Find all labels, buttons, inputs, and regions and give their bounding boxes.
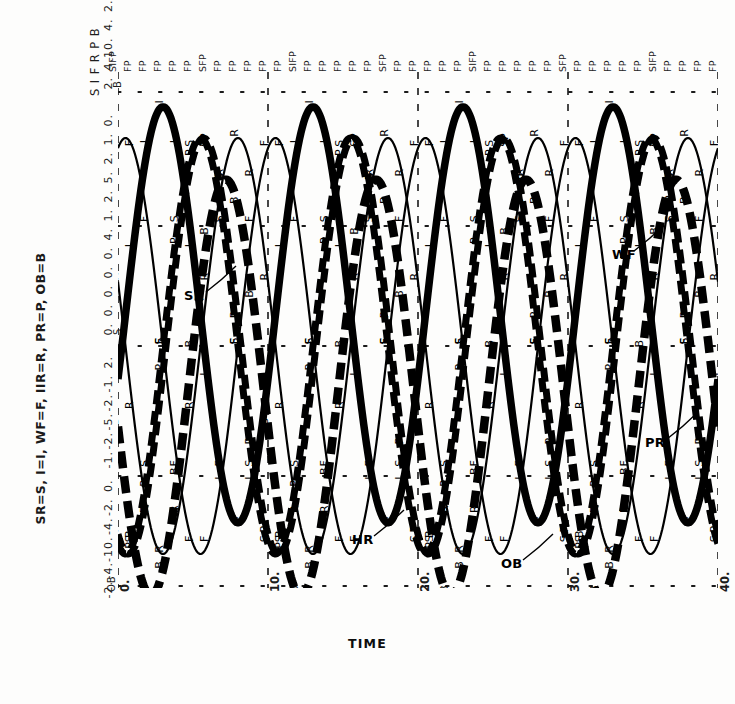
y-tick-label: 1. [102, 209, 115, 228]
point-code-F: F [213, 460, 226, 466]
point-code-I: I [558, 372, 571, 375]
x-tick-label: 10. [268, 572, 282, 592]
point-code-P: P [648, 133, 661, 140]
point-code-R: R [483, 401, 496, 409]
point-code-R: R [693, 169, 706, 177]
point-code-R: R [243, 169, 256, 177]
y-tick-label: 1. [102, 133, 115, 152]
point-code-F: F [198, 536, 211, 542]
y-tick-label: 2. [102, 0, 115, 19]
callout-leader-line [523, 534, 553, 560]
point-code-F: F [468, 460, 481, 466]
top-tick-label: FP [122, 60, 133, 72]
point-code-I: I [273, 244, 286, 247]
top-tick-label: FP [677, 60, 688, 72]
point-code-I: I [153, 100, 166, 103]
top-tick-label: FP [347, 60, 358, 72]
series-callout-sr: SR [184, 288, 204, 303]
top-tick-label: FP [617, 60, 628, 72]
top-tick-label: FP [542, 60, 553, 72]
point-code-S: S [138, 460, 151, 467]
point-code-I: I [348, 372, 361, 375]
point-code-R: R [288, 505, 301, 513]
point-code-R: R [378, 129, 391, 137]
point-code-S: S [633, 140, 646, 147]
point-code-R: R [498, 273, 511, 281]
point-code-I: I [393, 476, 406, 479]
point-code-B: B [273, 530, 286, 538]
y-tick-row-middle: 0.0.0.0.0.4. [102, 228, 115, 342]
point-code-I: I [213, 476, 226, 479]
point-code-B: B [693, 290, 706, 298]
top-axis-tick-labels: SIFPFPFPFPFPFPSFPFPFPFPFPFPSIFPFPFPFPFPF… [118, 22, 718, 72]
point-code-R: R [408, 273, 421, 281]
point-code-F: F [408, 140, 421, 146]
point-code-F: F [303, 338, 316, 344]
point-code-S: S [168, 215, 181, 222]
point-code-I: I [513, 476, 526, 479]
point-code-R: R [273, 401, 286, 409]
point-code-S: S [468, 215, 481, 222]
point-code-R: R [573, 401, 586, 409]
point-code-P: P [243, 438, 256, 445]
point-code-F: F [618, 460, 631, 466]
point-code-S: S [118, 535, 121, 542]
series-callout-hr: HR [352, 532, 374, 547]
point-code-S: S [333, 140, 346, 147]
y-tick-label: 0. [102, 266, 115, 285]
point-code-B: B [618, 467, 631, 475]
point-code-R: R [438, 505, 451, 513]
point-code-F: F [588, 216, 601, 222]
point-code-I: I [663, 476, 676, 479]
y-tick-label: 4. [102, 19, 115, 38]
point-code-P: P [423, 542, 436, 549]
point-code-S: S [558, 535, 571, 542]
point-code-R: R [633, 401, 646, 409]
figure-canvas: SR=S, I=I, WF=F, IIR=R, PR=P, OB=B 2.4.1… [0, 0, 735, 704]
point-code-P: P [408, 526, 421, 533]
point-code-P: P [273, 542, 286, 549]
point-code-F: F [603, 338, 616, 344]
point-code-P: P [513, 195, 526, 202]
point-code-F: F [118, 140, 121, 146]
point-code-S: S [663, 215, 676, 222]
point-code-R: R [198, 273, 211, 281]
point-code-I: I [333, 244, 346, 247]
point-code-F: F [453, 338, 466, 344]
top-tick-label: FP [587, 60, 598, 72]
point-code-F: F [378, 338, 391, 344]
top-tick-label: FP [272, 60, 283, 72]
point-code-P: P [138, 480, 151, 487]
point-code-F: F [543, 216, 556, 222]
top-tick-label: FP [497, 60, 508, 72]
point-code-S: S [408, 535, 421, 542]
point-code-F: F [363, 460, 376, 466]
point-code-I: I [183, 244, 196, 247]
point-code-B: B [348, 227, 361, 235]
point-code-S: S [393, 460, 406, 467]
y-tick-label: 0. [102, 247, 115, 266]
point-code-P: P [153, 363, 166, 370]
point-code-I: I [198, 372, 211, 375]
point-code-S: S [183, 140, 196, 147]
point-code-R: R [528, 129, 541, 137]
point-code-B: B [588, 585, 601, 588]
point-code-P: P [543, 438, 556, 445]
y-tick-label: -10. [102, 537, 115, 562]
y-tick-label: 0. [102, 304, 115, 323]
point-code-I: I [588, 140, 601, 143]
point-code-B: B [603, 561, 616, 569]
point-code-I: I [318, 140, 331, 143]
point-code-R: R [678, 129, 691, 137]
top-tick-label: FP [257, 60, 268, 72]
point-code-P: P [333, 149, 346, 156]
point-code-I: I [543, 476, 556, 479]
point-code-R: R [118, 273, 121, 281]
point-code-B: B [183, 340, 196, 348]
y-tick-row-upper: 1.2.5.2.1.0. [102, 114, 115, 228]
y-tick-label: 0. [102, 114, 115, 133]
point-code-B: B [198, 227, 211, 235]
point-code-F: F [393, 216, 406, 222]
point-code-F: F [708, 140, 718, 146]
point-code-P: P [708, 526, 718, 533]
